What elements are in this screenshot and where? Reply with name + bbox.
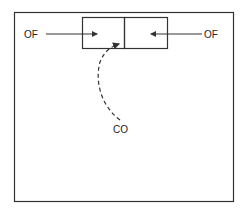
diagram-canvas: OF OF CO bbox=[0, 0, 243, 213]
right-compartment bbox=[125, 18, 168, 49]
bottom-label: CO bbox=[113, 124, 128, 135]
left-label: OF bbox=[24, 29, 38, 40]
right-label: OF bbox=[204, 29, 218, 40]
dashed-curve-arrow bbox=[98, 44, 120, 120]
